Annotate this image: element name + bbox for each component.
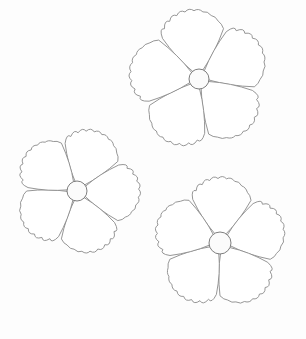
top-right-flower [129,9,265,146]
left-flower [20,129,141,253]
bottom-right-flower [155,177,284,304]
petal [167,247,219,303]
flower-center [209,232,231,254]
flower-center [189,69,209,89]
flower-sketch [0,0,306,339]
sketch-canvas [0,0,306,339]
petal [201,82,259,139]
flower-center [67,181,87,201]
